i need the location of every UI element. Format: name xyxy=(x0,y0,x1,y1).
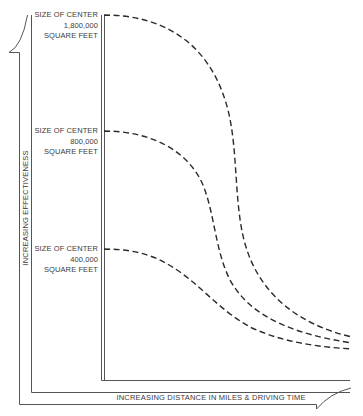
label-400k-line3: SQUARE FEET xyxy=(35,265,99,276)
curve-1800k xyxy=(104,15,352,337)
y-axis-label-text: INCREASING EFFECTIVENESS xyxy=(21,150,30,265)
label-1800k-line3: SQUARE FEET xyxy=(35,31,99,42)
label-center-400k: SIZE OF CENTER 400,000 SQUARE FEET xyxy=(35,244,99,276)
label-center-800k: SIZE OF CENTER 800,000 SQUARE FEET xyxy=(35,126,99,158)
label-1800k-line1: SIZE OF CENTER xyxy=(35,10,99,21)
label-1800k-line2: 1,800,000 xyxy=(35,21,99,32)
curve-400k xyxy=(104,249,352,349)
label-800k-line3: SQUARE FEET xyxy=(35,147,99,158)
plot-axes xyxy=(102,15,351,381)
curves xyxy=(104,15,352,349)
curve-800k xyxy=(104,131,352,343)
label-center-1800k: SIZE OF CENTER 1,800,000 SQUARE FEET xyxy=(35,10,99,42)
chart-canvas xyxy=(0,0,363,416)
x-axis-label: INCREASING DISTANCE IN MILES & DRIVING T… xyxy=(72,393,350,402)
label-800k-line1: SIZE OF CENTER xyxy=(35,126,99,137)
label-400k-line1: SIZE OF CENTER xyxy=(35,244,99,255)
outer-arrow-frame xyxy=(9,15,351,409)
y-arrow-inner xyxy=(32,15,351,393)
label-800k-line2: 800,000 xyxy=(35,137,99,148)
y-axis-label: INCREASING EFFECTIVENESS xyxy=(19,145,31,270)
label-400k-line2: 400,000 xyxy=(35,255,99,266)
